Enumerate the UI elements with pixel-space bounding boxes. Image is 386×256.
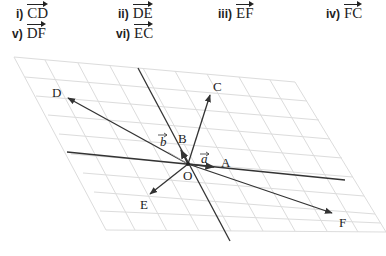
point-label-A: A bbox=[221, 155, 231, 170]
point-label-F: F bbox=[339, 215, 346, 230]
vector-label-b: b bbox=[160, 134, 167, 149]
vector-label-a: a bbox=[201, 151, 208, 166]
grid bbox=[14, 57, 386, 232]
origin-point bbox=[186, 162, 190, 166]
point-label-D: D bbox=[52, 85, 61, 100]
point-label-B: B bbox=[178, 131, 187, 146]
point-label-O: O bbox=[183, 168, 192, 183]
vector-diagram: D C B A O E F b a bbox=[0, 0, 386, 256]
point-label-C: C bbox=[213, 79, 222, 94]
point-label-E: E bbox=[140, 197, 148, 212]
